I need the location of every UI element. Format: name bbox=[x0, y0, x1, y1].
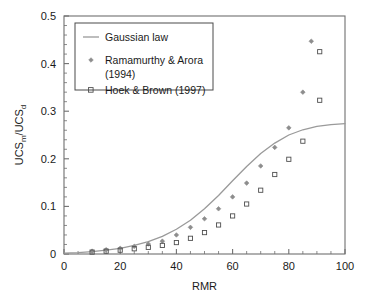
chart-svg: 020406080100 00.10.20.30.40.5 Gaussian l… bbox=[0, 0, 376, 300]
chart-legend: Gaussian lawRamamurthy & Arora(1994)Hoek… bbox=[75, 23, 213, 96]
x-tick-label: 100 bbox=[336, 260, 354, 272]
y-tick-label: 0.5 bbox=[41, 10, 56, 22]
y-tick-label: 0.1 bbox=[41, 200, 56, 212]
y-tick-label: 0.2 bbox=[41, 153, 56, 165]
x-tick-label: 40 bbox=[170, 260, 182, 272]
x-tick-label: 60 bbox=[226, 260, 238, 272]
x-tick-label: 20 bbox=[114, 260, 126, 272]
chart-container: 020406080100 00.10.20.30.40.5 Gaussian l… bbox=[0, 0, 376, 300]
x-axis-title: RMR bbox=[192, 280, 217, 292]
y-tick-label: 0.3 bbox=[41, 105, 56, 117]
legend-label-ramamurthy-year: (1994) bbox=[105, 68, 135, 80]
y-tick-label: 0.4 bbox=[41, 58, 56, 70]
legend-label-gaussian-law: Gaussian law bbox=[105, 31, 168, 43]
legend-label-hoek: Hoek & Brown (1997) bbox=[105, 84, 205, 96]
x-tick-label: 0 bbox=[61, 260, 67, 272]
x-tick-label: 80 bbox=[283, 260, 295, 272]
legend-label-ramamurthy: Ramamurthy & Arora bbox=[105, 54, 203, 66]
y-tick-label: 0 bbox=[50, 248, 56, 260]
